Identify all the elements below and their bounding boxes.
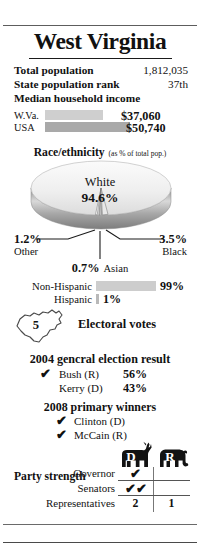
ethnicity-row-non-hispanic: Non-Hispanic 99%: [8, 279, 192, 292]
general-election-percent-bush: 56%: [123, 367, 147, 382]
party-strength-column-icons: D R: [118, 441, 190, 469]
pie-callout-asian: 0.7% Asian: [0, 258, 200, 276]
primary-winners-heading: 2008 primary winners: [0, 400, 200, 415]
party-strength-representatives-r: 1: [156, 496, 187, 511]
top-divider: [3, 25, 197, 26]
income-bar-state: [45, 110, 103, 120]
donkey-letter: D: [126, 449, 135, 464]
party-strength-table: Governor ✔ Senators ✔✔ Representatives 2…: [8, 466, 192, 524]
pie-callout-black: 3.5% Black: [159, 233, 187, 257]
check-icon: ✔✔: [125, 482, 147, 496]
elephant-letter: R: [165, 449, 175, 464]
pie-callout-other: 1.2% Other: [14, 233, 42, 257]
pie-callout-asian-percent: 0.7%: [72, 261, 100, 275]
pie-callout-black-percent: 3.5%: [159, 233, 187, 246]
general-election-percent-kerry: 43%: [123, 381, 147, 396]
title-underline: [29, 58, 172, 59]
state-profile-infographic: West Virginia Total population 1,812,035…: [0, 0, 200, 547]
pie-callout-other-name: Other: [14, 246, 42, 257]
pie-callout-asian-name: Asian: [103, 263, 128, 274]
winner-check-icon: ✔: [40, 366, 51, 382]
bottom-divider-2: [3, 542, 197, 543]
table-row: Governor ✔: [8, 466, 192, 481]
general-election-name-kerry: Kerry (D): [59, 382, 103, 394]
table-row: Senators ✔✔: [8, 481, 192, 496]
total-population-value: 1,812,035: [143, 64, 188, 76]
check-icon: ✔: [56, 427, 67, 443]
income-bar-usa: [45, 122, 130, 132]
population-rank-value: 37th: [168, 78, 188, 90]
bottom-divider-1: [3, 524, 197, 525]
general-election-name-bush: Bush (R): [59, 368, 99, 380]
income-row-state-label: W.Va.: [14, 110, 39, 121]
ethnicity-label-hispanic: Hispanic: [8, 293, 92, 305]
donkey-icon: D: [122, 442, 152, 467]
pie-callout-black-name: Black: [159, 246, 187, 257]
party-strength-governor-d: ✔: [120, 466, 151, 481]
party-strength-label-senators: Senators: [8, 482, 115, 494]
page-title: West Virginia: [0, 29, 200, 54]
primary-winner-name-clinton: Clinton (D): [74, 415, 125, 427]
party-strength-label-governor: Governor: [8, 467, 115, 479]
pie-label-white-name: White: [0, 176, 200, 190]
party-icons-svg: D R: [118, 441, 190, 469]
leader-other: [36, 230, 95, 239]
party-strength-senators-d: ✔✔: [120, 481, 151, 496]
general-election-heading: 2004 gencral election result: [0, 352, 200, 367]
ethnicity-bar-non-hispanic: [96, 281, 156, 291]
electoral-votes-block: 5 Electoral votes: [12, 304, 198, 348]
population-rank-row: State population rank 37th: [14, 78, 188, 90]
primary-winner-name-mccain: McCain (R): [74, 429, 127, 441]
income-row-usa-label: USA: [14, 122, 35, 133]
population-rank-label: State population rank: [14, 78, 119, 90]
check-icon: ✔: [130, 467, 141, 481]
race-heading-sub: (as % of total pop.): [109, 149, 167, 158]
pie-label-white: White 94.6%: [0, 176, 200, 205]
ethnicity-label-non-hispanic: Non-Hispanic: [8, 280, 92, 292]
party-strength-senators-r: [156, 481, 187, 496]
ethnicity-bar-hispanic: [96, 294, 99, 304]
general-election-row-bush: ✔ Bush (R) 56%: [40, 367, 180, 382]
total-population-row: Total population 1,812,035: [14, 64, 188, 76]
total-population-label: Total population: [14, 64, 94, 76]
leader-black: [106, 230, 164, 239]
income-row-state: W.Va. $37,060: [14, 109, 192, 121]
pie-label-white-percent: 94.6%: [0, 190, 200, 205]
table-row: Representatives 2 1: [8, 496, 192, 511]
income-value-usa: $50,740: [126, 121, 166, 136]
electoral-votes-label: Electoral votes: [78, 317, 156, 332]
party-strength-governor-r: [156, 466, 187, 481]
party-strength-representatives-d: 2: [120, 496, 151, 511]
general-election-row-kerry: Kerry (D) 43%: [40, 381, 180, 396]
income-row-usa: USA $50,740: [14, 121, 192, 133]
electoral-votes-count: 5: [27, 318, 45, 333]
pie-callout-other-percent: 1.2%: [14, 233, 42, 246]
party-strength-label-representatives: Representatives: [8, 497, 115, 509]
primary-winner-row-clinton: ✔ Clinton (D): [56, 414, 176, 429]
income-heading: Median household income: [14, 92, 140, 104]
elephant-icon: R: [160, 449, 188, 467]
